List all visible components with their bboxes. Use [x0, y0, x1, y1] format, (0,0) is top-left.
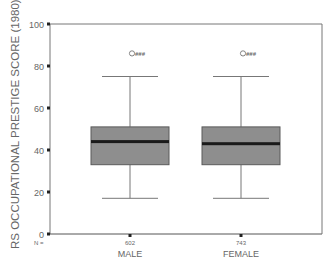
y-axis-label: RS OCCUPATIONAL PRESTIGE SCORE (1980)	[9, 9, 23, 249]
y-tick-mark	[47, 191, 50, 194]
y-tick-label: 80	[34, 62, 44, 72]
y-tick-mark	[47, 233, 50, 236]
y-tick-label: 100	[29, 20, 44, 30]
outlier-label: ###	[246, 51, 257, 57]
median-line	[202, 142, 280, 145]
x-tick-mark	[129, 234, 132, 237]
outlier-label: ###	[135, 51, 146, 57]
outlier-marker	[240, 51, 245, 56]
category-label: MALE	[118, 249, 143, 259]
y-tick-label: 0	[39, 230, 44, 240]
n-prefix-label: N =	[34, 240, 44, 246]
box-male	[91, 127, 169, 165]
y-tick-mark	[47, 107, 50, 110]
x-tick-mark	[240, 234, 243, 237]
y-tick-label: 20	[34, 188, 44, 198]
y-tick-mark	[47, 23, 50, 26]
y-tick-label: 40	[34, 146, 44, 156]
box-plot-chart: 020406080100###602MALE###743FEMALEN =	[0, 0, 333, 272]
median-line	[91, 140, 169, 143]
y-tick-label: 60	[34, 104, 44, 114]
n-count-label: 602	[125, 240, 136, 246]
n-count-label: 743	[236, 240, 247, 246]
plot-area: 020406080100###602MALE###743FEMALEN =	[0, 0, 333, 272]
y-tick-mark	[47, 65, 50, 68]
box-female	[202, 127, 280, 165]
outlier-marker	[129, 51, 134, 56]
category-label: FEMALE	[223, 249, 259, 259]
y-tick-mark	[47, 149, 50, 152]
